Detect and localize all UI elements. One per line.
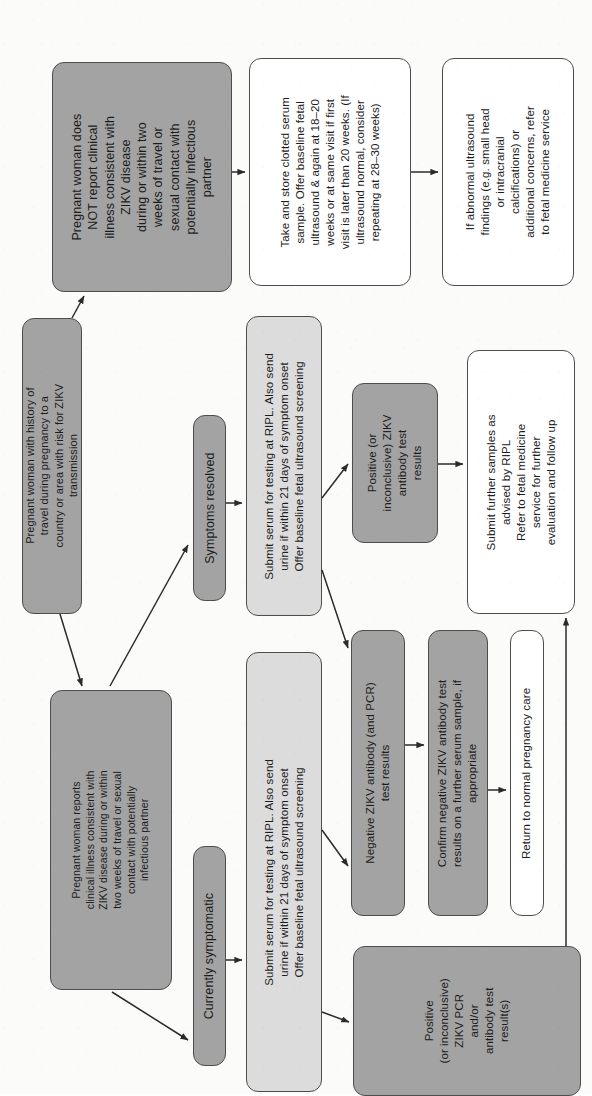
node-reports-clinical-illness[interactable]: Pregnant woman reportsclinical illness c… [50,690,172,990]
node-positive-pcr-label: Positive(or inconclusive)ZIKV PCRand/ora… [422,978,512,1063]
node-negative-antibody-label: Negative ZIKV antibody (and PCR)test res… [363,682,393,864]
node-no-clinical-illness[interactable]: Pregnant woman doesNOT report clinicalil… [52,62,232,292]
node-positive-pcr[interactable]: Positive(or inconclusive)ZIKV PCRand/ora… [353,946,581,1096]
node-submit-serum-resolved[interactable]: Submit serum for testing at RIPL. Also s… [246,316,322,616]
edge-submit-symptomatic-to-negative [322,830,348,866]
node-symptoms-resolved[interactable]: Symptoms resolved [193,415,226,601]
node-take-store-serum[interactable]: Take and store clotted serumsample. Offe… [249,58,411,286]
node-positive-antibody[interactable]: Positive (orinconclusive) ZIKVantibody t… [352,383,438,543]
node-return-normal-care-label: Return to normal pregnancy care [520,687,535,858]
edge-travel-to-reports [60,614,82,686]
edge-submit-resolved-to-negative [322,570,348,648]
node-travel-history[interactable]: Pregnant woman with history oftravel dur… [22,318,82,614]
node-submit-further-samples[interactable]: Submit further samples asadvised by RIPL… [467,350,575,614]
node-confirm-negative-label: Confirm negative ZIKV antibody testresul… [436,679,481,867]
edge-travel-to-no-illness [72,296,84,318]
node-travel-history-label: Pregnant woman with history oftravel dur… [23,384,80,548]
edge-submit-resolved-to-positive [322,464,348,498]
node-reports-clinical-illness-label: Pregnant woman reportsclinical illness c… [70,770,152,909]
node-abnormal-ultrasound-label: If abnormal ultrasoundfindings (e.g. sma… [463,106,553,238]
node-confirm-negative[interactable]: Confirm negative ZIKV antibody testresul… [428,630,488,916]
node-currently-symptomatic-label: Currently symptomatic [201,893,217,1019]
node-take-store-serum-label: Take and store clotted serumsample. Offe… [278,95,383,249]
node-symptoms-resolved-label: Symptoms resolved [201,452,217,563]
node-no-clinical-illness-label: Pregnant woman doesNOT report clinicalil… [69,114,215,241]
node-positive-antibody-label: Positive (orinconclusive) ZIKVantibody t… [365,414,425,511]
node-return-normal-care[interactable]: Return to normal pregnancy care [510,630,544,916]
edge-submit-symptomatic-to-positive-pcr [322,1012,349,1022]
node-abnormal-ultrasound[interactable]: If abnormal ultrasoundfindings (e.g. sma… [442,58,574,286]
node-submit-serum-resolved-label: Submit serum for testing at RIPL. Also s… [262,353,307,580]
node-submit-serum-symptomatic-label: Submit serum for testing at RIPL. Also s… [262,759,307,986]
node-negative-antibody[interactable]: Negative ZIKV antibody (and PCR)test res… [351,630,405,916]
edge-reports-to-resolved [110,545,188,686]
node-submit-serum-symptomatic[interactable]: Submit serum for testing at RIPL. Also s… [246,652,322,1092]
node-submit-further-samples-label: Submit further samples asadvised by RIPL… [484,414,559,550]
edge-reports-to-symptomatic [112,992,188,1040]
node-currently-symptomatic[interactable]: Currently symptomatic [193,846,226,1066]
